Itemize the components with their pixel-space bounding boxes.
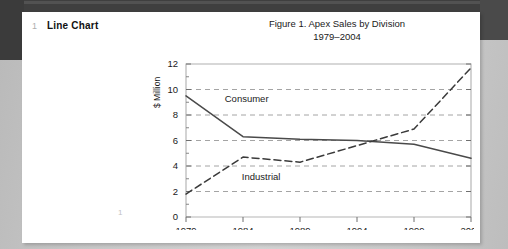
x-tick-label: 2004 — [460, 225, 474, 230]
x-tick-label: 1994 — [346, 225, 367, 230]
y-tick-label: 6 — [173, 135, 178, 146]
y-tick-label: 0 — [173, 211, 178, 222]
left-dark-block — [0, 0, 24, 60]
document-page: 1 Line Chart Figure 1. Apex Sales by Div… — [22, 12, 480, 243]
band-sheen — [0, 1, 508, 4]
x-tick-label: 1984 — [232, 225, 253, 230]
figure-title-line1: Figure 1. Apex Sales by Division — [202, 18, 472, 31]
series-annotation: Consumer — [225, 93, 269, 104]
y-tick-label: 2 — [173, 186, 178, 197]
line-chart: $ Million 024681012197919841989199419992… — [130, 42, 474, 230]
right-dark-block — [480, 0, 508, 40]
x-tick-label: 1979 — [175, 225, 196, 230]
y-axis-label: $ Million — [152, 77, 162, 108]
series-line-industrial — [186, 68, 471, 194]
section-title: Line Chart — [47, 20, 98, 31]
screenshot-stage: 1 Line Chart Figure 1. Apex Sales by Div… — [0, 0, 508, 249]
section-heading: 1 Line Chart — [32, 20, 98, 31]
series-annotation: Industrial — [242, 171, 281, 182]
y-tick-label: 4 — [173, 160, 178, 171]
series-line-consumer — [186, 96, 471, 158]
x-tick-label: 1999 — [403, 225, 424, 230]
figure-title: Figure 1. Apex Sales by Division 1979–20… — [202, 18, 472, 44]
top-dark-band — [0, 0, 508, 12]
y-tick-label: 8 — [173, 109, 178, 120]
chart-canvas: 024681012197919841989199419992004Consume… — [130, 42, 474, 230]
x-tick-label: 1989 — [289, 225, 310, 230]
y-tick-label: 12 — [167, 58, 178, 69]
page-folio: 1 — [118, 208, 122, 217]
section-number: 1 — [32, 21, 37, 31]
y-tick-label: 10 — [167, 84, 178, 95]
